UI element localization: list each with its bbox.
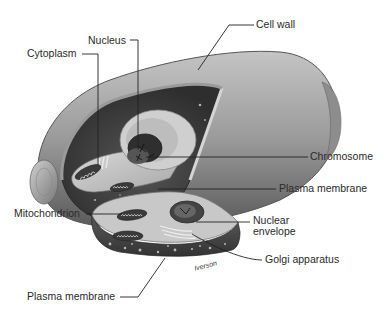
label-nucleus: Nucleus (88, 35, 126, 47)
label-cell-wall: Cell wall (256, 19, 295, 31)
label-plasma-membrane-top: Plasma membrane (279, 183, 367, 195)
label-plasma-membrane-bottom: Plasma membrane (27, 291, 115, 303)
cell-end-cap (30, 160, 58, 204)
label-chromosome: Chromosome (310, 151, 373, 163)
label-mitochondrion: Mitochondrion (14, 208, 80, 220)
label-nuclear-envelope-line2: envelope (253, 226, 296, 238)
label-golgi-apparatus: Golgi apparatus (265, 254, 339, 266)
label-cytoplasm: Cytoplasm (27, 48, 77, 60)
